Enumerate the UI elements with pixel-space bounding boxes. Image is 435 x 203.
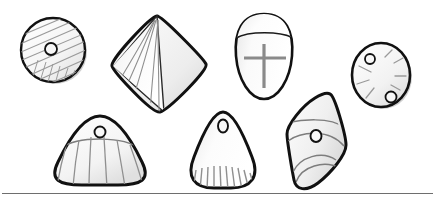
artifact-two-hole-disc	[352, 43, 412, 109]
artifact-1-perforation	[45, 43, 57, 55]
artifact-4-outline	[352, 43, 410, 107]
artifact-5-perforation	[95, 127, 106, 138]
artifact-6-perforation	[218, 120, 228, 133]
artifact-4-perforation-lower	[386, 92, 397, 103]
figure-plate: Line drawing plate of seven perforated s…	[0, 0, 435, 203]
artifact-4-perforation-upper	[365, 54, 375, 64]
artifact-7-perforation	[311, 130, 322, 142]
artifact-illustration-canvas	[0, 0, 435, 203]
